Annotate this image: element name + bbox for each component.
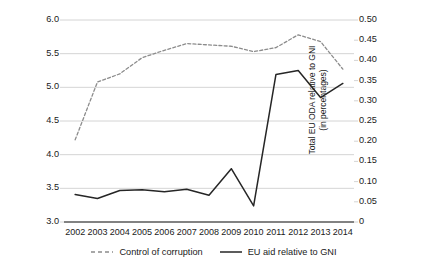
chart-legend: Control of corruptionEU aid relative to … xyxy=(0,247,427,257)
y-axis-left-tick-label: 3.5 xyxy=(33,182,59,192)
legend-item-2[interactable]: EU aid relative to GNI xyxy=(219,247,337,257)
line-chart-figure: World Bank Control of Corruption (recode… xyxy=(0,0,427,270)
y-axis-right-tick-label: 0.50 xyxy=(359,14,389,24)
y-axis-right-tick-label: 0.30 xyxy=(359,95,389,105)
legend-item-1[interactable]: Control of corruption xyxy=(90,247,202,257)
y-axis-right-tick-label: 0.15 xyxy=(359,155,389,165)
y-axis-left-tick-label: 6.0 xyxy=(33,14,59,24)
y-axis-right-tick-label: 0.20 xyxy=(359,135,389,145)
dashed-line-icon xyxy=(90,248,114,256)
y-axis-right-tick-label: 0.10 xyxy=(359,176,389,186)
plot-area xyxy=(64,20,354,222)
series-line-1 xyxy=(75,35,343,140)
y-axis-right-tick-label: 0 xyxy=(359,216,389,226)
y-axis-left-tick-label: 5.0 xyxy=(33,81,59,91)
legend-label: EU aid relative to GNI xyxy=(248,247,337,257)
y-axis-left-tick-label: 4.5 xyxy=(33,115,59,125)
y-axis-left-tick-label: 5.5 xyxy=(33,48,59,58)
y-axis-right-tick-label: 0.45 xyxy=(359,34,389,44)
y-axis-right-tick-label: 0.05 xyxy=(359,196,389,206)
series-lines xyxy=(64,20,354,222)
y-axis-left-tick-label: 4.0 xyxy=(33,149,59,159)
y-axis-right-tick-label: 0.35 xyxy=(359,75,389,85)
solid-line-icon xyxy=(219,248,243,256)
series-line-2 xyxy=(75,71,343,206)
x-axis-tick-label: 2014 xyxy=(328,227,358,237)
legend-label: Control of corruption xyxy=(119,247,202,257)
y-axis-right-tick-label: 0.25 xyxy=(359,115,389,125)
y-axis-left-tick-label: 3.0 xyxy=(33,216,59,226)
y-axis-right-tick-label: 0.40 xyxy=(359,54,389,64)
